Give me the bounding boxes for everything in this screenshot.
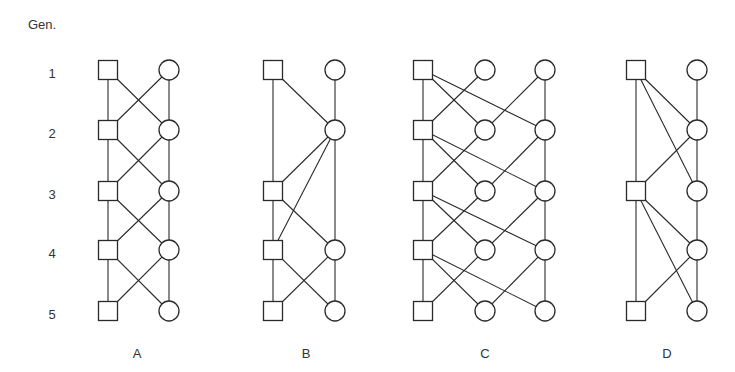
female-circle-node — [687, 181, 707, 201]
female-circle-node — [535, 240, 555, 260]
female-circle-node — [325, 240, 345, 260]
female-circle-node — [475, 240, 495, 260]
female-circle-node — [535, 60, 555, 80]
female-circle-node — [535, 120, 555, 140]
male-square-node — [99, 182, 118, 201]
pedigree-A — [99, 60, 180, 321]
female-circle-node — [535, 181, 555, 201]
female-circle-node — [159, 301, 179, 321]
edge-r2-m3 — [485, 130, 545, 191]
female-circle-node — [159, 60, 179, 80]
male-square-node — [99, 302, 118, 321]
male-square-node — [264, 61, 283, 80]
female-circle-node — [325, 120, 345, 140]
female-circle-node — [475, 120, 495, 140]
female-circle-node — [325, 301, 345, 321]
panel-label-D: D — [662, 346, 671, 361]
female-circle-node — [475, 301, 495, 321]
edge-r4-m5 — [485, 250, 545, 311]
male-square-node — [414, 182, 433, 201]
male-square-node — [99, 61, 118, 80]
pedigree-D — [627, 60, 708, 321]
edge-r1-m2 — [485, 70, 545, 130]
female-circle-node — [325, 60, 345, 80]
male-square-node — [627, 302, 646, 321]
panel-label-B: B — [302, 346, 311, 361]
male-square-node — [414, 121, 433, 140]
male-square-node — [414, 302, 433, 321]
male-square-node — [627, 61, 646, 80]
male-square-node — [99, 121, 118, 140]
male-square-node — [414, 241, 433, 260]
female-circle-node — [687, 60, 707, 80]
male-square-node — [414, 61, 433, 80]
pedigree-figure: Gen. 12345 ABCD — [0, 0, 735, 372]
female-circle-node — [159, 181, 179, 201]
pedigree-C — [414, 60, 556, 321]
pedigree-B — [264, 60, 346, 321]
diagram-canvas — [0, 0, 735, 372]
female-circle-node — [475, 181, 495, 201]
male-square-node — [264, 182, 283, 201]
female-circle-node — [687, 301, 707, 321]
edge-r3-m4 — [485, 191, 545, 250]
female-circle-node — [687, 240, 707, 260]
panel-label-C: C — [480, 346, 489, 361]
male-square-node — [627, 182, 646, 201]
male-square-node — [264, 302, 283, 321]
female-circle-node — [687, 120, 707, 140]
female-circle-node — [535, 301, 555, 321]
female-circle-node — [159, 240, 179, 260]
male-square-node — [264, 241, 283, 260]
male-square-node — [99, 241, 118, 260]
panel-label-A: A — [133, 346, 142, 361]
female-circle-node — [475, 60, 495, 80]
female-circle-node — [159, 120, 179, 140]
